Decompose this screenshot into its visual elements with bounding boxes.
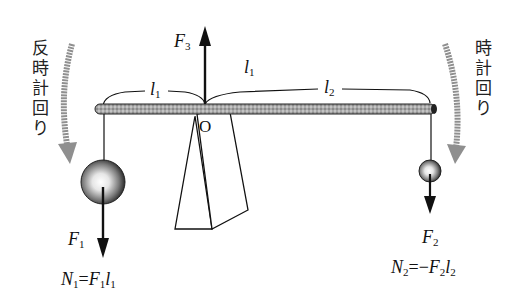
label-pivot-o: O (199, 118, 211, 135)
label-arm-right-l2: l2 (324, 78, 335, 98)
fulcrum (175, 107, 248, 229)
label-moment-n1: N1=F1l1 (61, 270, 116, 290)
rotation-arrow-counterclockwise-icon (58, 44, 77, 164)
force-arrow-f3 (199, 26, 211, 104)
label-f3: F3 (174, 32, 191, 52)
counterclockwise-label: 反 時 計 回 り (30, 38, 50, 138)
label-f1: F1 (68, 230, 85, 250)
right-weight (419, 114, 441, 214)
rotation-arrow-clockwise-icon (445, 44, 466, 164)
label-arm-top-l1: l1 (244, 58, 255, 78)
clockwise-label: 時 計 回 り (473, 38, 493, 118)
lever-bar (95, 104, 437, 114)
label-moment-n2: N2=−F2l2 (391, 258, 456, 278)
label-f2: F2 (422, 228, 439, 248)
brace-right-l2 (205, 89, 430, 104)
label-arm-left-l1: l1 (150, 80, 161, 100)
left-weight (81, 114, 125, 258)
lever-diagram: 反 時 計 回 り 時 計 回 り F3 l1 l1 l2 O F1 F2 N1… (0, 0, 519, 307)
